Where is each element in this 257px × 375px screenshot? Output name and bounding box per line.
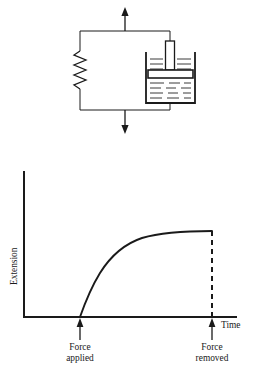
piston-plate xyxy=(148,70,193,78)
force-removed-label-line1: Force xyxy=(201,342,222,352)
model-diagram xyxy=(74,7,195,134)
creep-curve xyxy=(80,231,212,317)
force-applied-label-line1: Force xyxy=(69,342,90,352)
dashpot-element xyxy=(146,31,195,110)
top-force-arrow-icon xyxy=(121,7,128,31)
bottom-force-arrow-icon xyxy=(121,110,128,134)
piston-rod xyxy=(166,41,175,70)
force-removed-label-line2: removed xyxy=(196,353,229,363)
y-axis-label: Extension xyxy=(9,247,19,285)
force-applied-label-line2: applied xyxy=(66,353,94,363)
figure-root: Extension Time Force applied Force remov… xyxy=(0,0,257,375)
figure-canvas: Extension Time Force applied Force remov… xyxy=(0,0,257,375)
force-removed-marker-icon xyxy=(209,318,216,340)
fluid-lower xyxy=(150,83,191,98)
x-axis-label: Time xyxy=(221,320,240,330)
spring-element xyxy=(74,31,86,110)
force-applied-marker-icon xyxy=(77,318,84,340)
creep-chart: Extension Time Force applied Force remov… xyxy=(9,172,240,363)
